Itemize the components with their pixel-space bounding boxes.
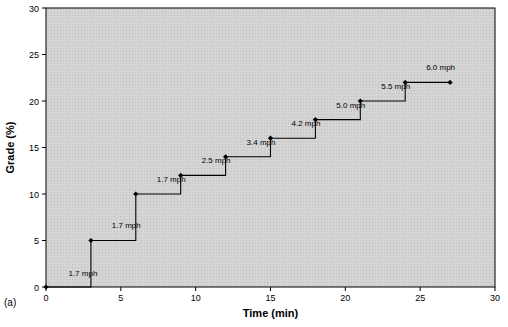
- series-annotation: 4.2 mph: [291, 119, 320, 128]
- x-axis-tick-label: 5: [118, 293, 123, 303]
- y-axis-tick-label: 30: [29, 4, 39, 14]
- y-axis-tick-label: 15: [29, 143, 39, 153]
- series-annotation: 1.7 mph: [157, 175, 186, 184]
- x-axis-title: Time (min): [243, 307, 299, 319]
- chart-figure: 051015202530051015202530Time (min)Grade …: [0, 0, 508, 327]
- x-axis-tick-label: 30: [490, 293, 500, 303]
- x-axis-tick-label: 25: [415, 293, 425, 303]
- series-annotation: 1.7 mph: [112, 221, 141, 230]
- y-axis-title: Grade (%): [4, 121, 16, 173]
- x-axis-tick-label: 0: [43, 293, 48, 303]
- series-annotation: 5.5 mph: [381, 82, 410, 91]
- panel-label: (a): [4, 297, 16, 308]
- chart-canvas: 051015202530051015202530Time (min)Grade …: [0, 0, 508, 327]
- series-annotation: 2.5 mph: [202, 156, 231, 165]
- y-axis-tick-label: 20: [29, 97, 39, 107]
- y-axis-tick-label: 5: [34, 236, 39, 246]
- y-axis-tick-label: 10: [29, 190, 39, 200]
- x-axis-tick-label: 15: [265, 293, 275, 303]
- y-axis-tick-label: 25: [29, 50, 39, 60]
- series-annotation: 6.0 mph: [426, 63, 455, 72]
- x-axis-tick-label: 20: [340, 293, 350, 303]
- y-axis-tick-label: 0: [34, 283, 39, 293]
- x-axis-tick-label: 10: [191, 293, 201, 303]
- series-annotation: 3.4 mph: [247, 138, 276, 147]
- series-annotation: 1.7 mph: [68, 269, 97, 278]
- series-annotation: 5.0 mph: [336, 101, 365, 110]
